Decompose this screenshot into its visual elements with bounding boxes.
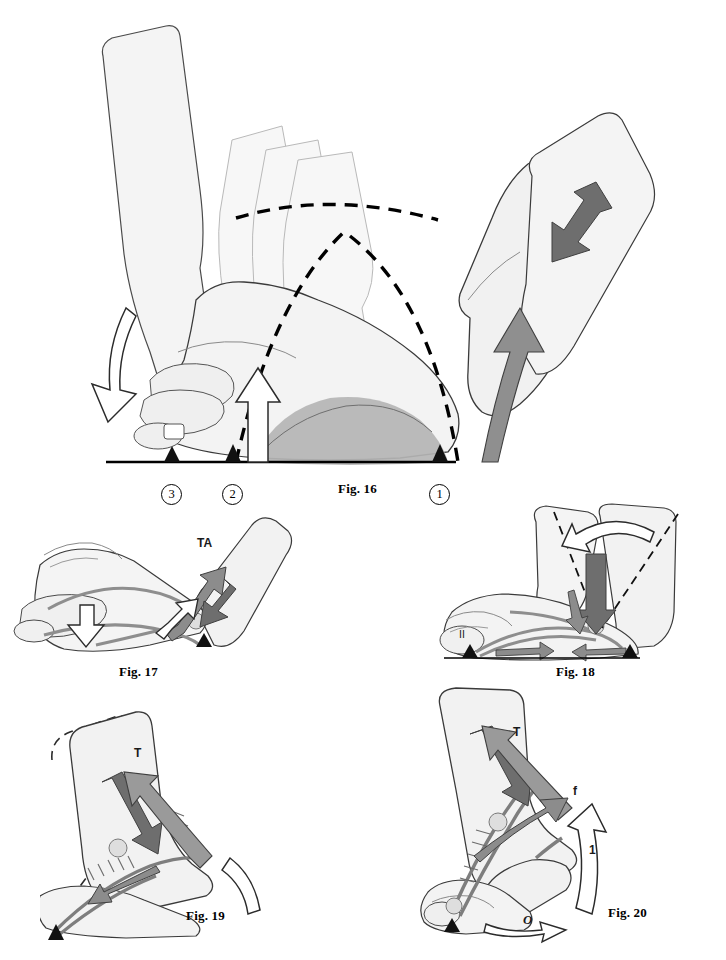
leg-position-forward-outer <box>521 113 655 374</box>
fig20-illustration <box>400 680 726 960</box>
fig16-illustration <box>0 0 726 505</box>
figure-plate: 3 2 1 Fig. 16 <box>0 0 726 960</box>
label-o-fig20: O <box>523 912 532 928</box>
caption-fig16: Fig. 16 <box>338 481 377 497</box>
caption-fig20: Fig. 20 <box>608 905 647 921</box>
fig18-illustration <box>400 500 726 690</box>
ground-marker-3-label: 3 <box>168 487 174 501</box>
figure-panel-fig18: II Fig. 18 <box>400 500 726 690</box>
ground-marker-3: 3 <box>161 484 182 505</box>
caption-fig18: Fig. 18 <box>556 664 595 680</box>
forefoot-rocker-arrow-icon <box>92 308 136 422</box>
label-1-fig20: 1 <box>589 843 596 857</box>
caption-fig17: Fig. 17 <box>119 664 158 680</box>
caption-fig19: Fig. 19 <box>186 908 225 924</box>
figure-panel-fig19: T Fig. 19 <box>40 700 370 945</box>
fig19-joint-dot <box>109 839 127 857</box>
label-t-fig20: T <box>513 725 520 739</box>
figure-panel-fig17: TA Fig. 17 <box>0 505 360 690</box>
ground-marker-2: 2 <box>222 484 243 505</box>
fig20-joint-dot-upper <box>489 813 507 831</box>
ground-marker-1-label: 1 <box>436 487 442 501</box>
label-ta: TA <box>197 536 212 550</box>
fig20-joint-dot-lower <box>446 898 462 914</box>
heel-rise-arrow-icon <box>222 858 260 914</box>
label-t-fig19: T <box>134 746 141 760</box>
ground-marker-2-label: 2 <box>229 487 235 501</box>
figure-panel-fig16: 3 2 1 Fig. 16 <box>0 0 726 505</box>
label-ii: II <box>459 628 465 640</box>
label-f-fig20: f <box>573 784 577 798</box>
fig17-illustration <box>0 505 360 690</box>
figure-panel-fig20: T f 1 O Fig. 20 <box>400 680 726 960</box>
